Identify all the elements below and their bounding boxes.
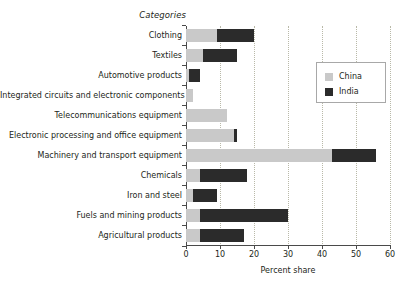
x-tick-label: 0 [183,250,188,259]
category-label: Automotive products [0,71,182,81]
y-tick-mark [182,45,186,46]
bar-china [186,89,193,102]
x-tick-label: 40 [317,250,327,259]
x-tick-mark [186,245,187,249]
legend-item-india: India [325,84,385,99]
value-axis-title: Percent share [186,266,390,275]
legend-label-india: India [339,87,359,96]
bar-row [186,106,390,126]
bar-india [186,209,288,222]
bar-china [186,129,234,142]
x-tick-mark [322,245,323,249]
y-tick-mark [182,85,186,86]
y-tick-mark [182,125,186,126]
x-tick-mark [288,245,289,249]
x-tick-label: 30 [283,250,293,259]
y-tick-mark [182,65,186,66]
bar-row [186,206,390,226]
y-tick-mark [182,205,186,206]
category-label: Electronic processing and office equipme… [0,131,182,141]
x-tick-label: 10 [215,250,225,259]
y-tick-mark [182,165,186,166]
y-tick-mark [182,185,186,186]
bar-china [186,149,332,162]
bar-china [186,69,189,82]
bar-row [186,186,390,206]
x-tick-label: 20 [249,250,259,259]
bar-row [186,226,390,246]
x-tick-mark [254,245,255,249]
x-tick-label: 50 [351,250,361,259]
y-tick-mark [182,105,186,106]
y-tick-mark [182,25,186,26]
bar-row [186,26,390,46]
bar-china [186,29,217,42]
x-tick-mark [220,245,221,249]
bar-china [186,189,193,202]
legend-label-china: China [339,72,362,81]
category-label: Agricultural products [0,231,182,241]
category-label: Chemicals [0,171,182,181]
category-label: Textiles [0,51,182,61]
bar-china [186,109,227,122]
legend-item-china: China [325,69,385,84]
bar-china [186,229,200,242]
category-label: Integrated circuits and electronic compo… [0,91,182,101]
category-label: Telecommunications equipment [0,111,182,121]
legend-swatch-india-icon [325,88,333,96]
x-tick-mark [390,245,391,249]
category-label: Iron and steel [0,191,182,201]
bar-row [186,166,390,186]
category-label: Fuels and mining products [0,211,182,221]
category-axis-title: Categories [0,10,186,20]
gridline [390,26,391,246]
bar-row [186,146,390,166]
bar-chart: Categories Percent share China India 010… [0,0,417,288]
plot-area [186,26,390,246]
legend-swatch-china-icon [325,73,333,81]
bar-china [186,209,200,222]
y-tick-mark [182,225,186,226]
x-tick-mark [356,245,357,249]
bar-china [186,169,200,182]
bar-row [186,126,390,146]
x-tick-label: 60 [385,250,395,259]
y-tick-mark [182,145,186,146]
bar-china [186,49,203,62]
category-label: Machinery and transport equipment [0,151,182,161]
category-label: Clothing [0,31,182,41]
chart-legend: China India [316,62,386,103]
